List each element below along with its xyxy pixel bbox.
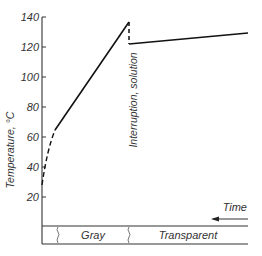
tick-label-140: 140	[21, 11, 40, 23]
y-tick-labels: 140 120 100 80 60 40 20	[21, 11, 40, 203]
tick-label-100: 100	[21, 71, 40, 83]
y-ticks	[42, 17, 46, 197]
tick-label-60: 60	[27, 131, 40, 143]
time-label: Time	[223, 201, 247, 213]
y-axis-title: Temperature, °C	[4, 111, 16, 188]
band-divider-interruption	[128, 227, 130, 243]
band-divider-left	[57, 227, 59, 243]
band-label-gray: Gray	[81, 229, 106, 241]
chart-canvas: 140 120 100 80 60 40 20 Temperature, °C …	[0, 0, 262, 256]
tick-label-40: 40	[27, 161, 40, 173]
time-arrow-icon	[211, 217, 248, 222]
tick-label-120: 120	[21, 41, 40, 53]
phase-band: Gray Transparent	[42, 226, 248, 244]
temperature-curve	[42, 22, 248, 185]
tick-label-20: 20	[26, 191, 40, 203]
interruption-label: Interruption, solution	[127, 52, 139, 147]
band-label-transparent: Transparent	[159, 229, 218, 241]
curve-dashed-initial	[42, 130, 55, 185]
curve-transparent-segment	[129, 33, 248, 44]
curve-heating-segment	[55, 22, 129, 130]
tick-label-80: 80	[27, 101, 40, 113]
